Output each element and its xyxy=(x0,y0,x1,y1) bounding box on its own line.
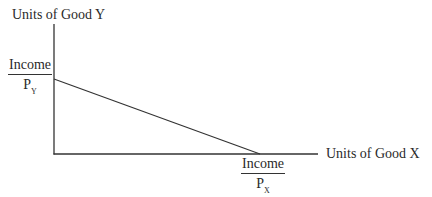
x-intercept-numerator: Income xyxy=(241,157,285,174)
budget-constraint-diagram: Units of Good Y Units of Good X Income P… xyxy=(0,0,432,197)
y-intercept-price-symbol: P xyxy=(23,77,31,92)
y-intercept-price-subscript: Y xyxy=(31,87,37,96)
budget-line xyxy=(54,79,260,154)
x-intercept-price-subscript: X xyxy=(264,186,270,195)
y-intercept-label: Income PY xyxy=(8,58,52,92)
x-intercept-label: Income PX xyxy=(241,157,285,191)
y-axis-label: Units of Good Y xyxy=(12,8,105,22)
x-intercept-denominator: PX xyxy=(256,174,270,191)
diagram-graphics xyxy=(0,0,432,197)
y-intercept-denominator: PY xyxy=(23,75,37,92)
x-intercept-price-symbol: P xyxy=(256,176,264,191)
y-intercept-numerator: Income xyxy=(8,58,52,75)
x-axis-label: Units of Good X xyxy=(326,147,420,161)
